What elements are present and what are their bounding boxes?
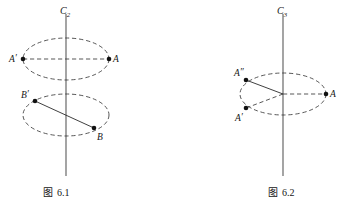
caption-number-fig2: 6.2 [282,187,295,198]
axis-label-subscript-fig1: 2 [67,11,71,18]
point-label-a-prime-fig2: A′ [234,112,244,123]
caption-cjk-fig2: 图 [268,187,278,198]
point-label-b-prime-fig1: B′ [21,89,30,100]
point-label-a-dprime-mark-fig2: ″ [240,67,245,77]
point-label-a-prime-fig1: A′ [8,53,18,64]
caption-fig1: 图6.1 [43,187,70,198]
radius-center-a-prime-fig2 [246,94,283,108]
caption-fig2: 图6.2 [268,187,295,198]
point-label-b-fig1: B [97,132,103,142]
figure-6-2-group: C3 A A″ A′ 图6.2 [233,5,336,198]
caption-number-fig1: 6.1 [57,187,70,198]
point-label-a-prime-mark-fig2: ′ [241,112,244,122]
vertex-dot-a-prime-fig1 [21,57,26,62]
vertex-dot-a-fig1 [107,57,112,62]
point-label-a-prime-mark-fig1: ′ [15,53,18,63]
vertex-dot-a-double-prime-fig2 [244,78,249,83]
radius-center-a-double-prime-fig2 [246,80,283,94]
vertex-dot-a-prime-fig2 [244,106,249,111]
vertex-dot-b-prime-fig1 [33,99,38,104]
axis-label-c3-fig2: C3 [277,5,288,18]
point-label-a-fig1: A [112,54,119,64]
point-label-a-double-prime-fig2: A″ [233,67,245,78]
diagram-canvas: C2 A′ A B′ B 图6.1 [0,0,344,210]
figure-board: C2 A′ A B′ B 图6.1 [0,0,344,210]
axis-label-subscript-fig2: 3 [283,11,288,18]
point-label-b-prime-mark-fig1: ′ [27,89,30,99]
chord-b-bprime-fig1 [35,101,94,128]
axis-label-c2-fig1: C2 [60,5,71,18]
caption-cjk-fig1: 图 [43,187,53,198]
vertex-dot-a-fig2 [324,92,329,97]
point-label-a-fig2: A [329,89,336,99]
figure-6-1-group: C2 A′ A B′ B 图6.1 [8,5,119,198]
vertex-dot-b-fig1 [92,126,97,131]
